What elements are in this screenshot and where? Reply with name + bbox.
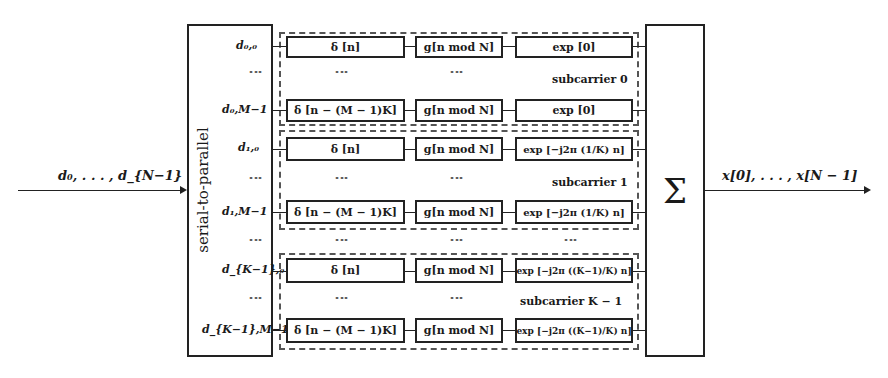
connector <box>503 110 515 111</box>
ellipsis-vertical: ⋮ <box>253 234 258 245</box>
subcarrier-label-0: subcarrier 0 <box>552 73 628 86</box>
connector <box>405 149 415 150</box>
modulation-block: exp [−j2π (1/K) n] <box>515 200 633 224</box>
ellipsis-vertical: ⋮ <box>339 172 344 183</box>
filter-block: g[n mod N] <box>415 99 503 122</box>
ellipsis-vertical: ⋮ <box>253 292 258 303</box>
connector <box>503 46 515 47</box>
connector <box>273 110 286 111</box>
connector <box>405 110 415 111</box>
delta-block: δ [n] <box>286 36 405 58</box>
connector <box>633 330 645 331</box>
filter-block: g[n mod N] <box>415 258 503 283</box>
filter-block: g[n mod N] <box>415 36 503 58</box>
delta-block: δ [n] <box>286 258 405 283</box>
filter-block: g[n mod N] <box>415 137 503 161</box>
sum-symbol: Σ <box>645 24 705 357</box>
connector <box>633 110 645 111</box>
connector <box>273 212 286 213</box>
connector <box>633 149 645 150</box>
input-label: d₀, . . . , d_{N−1} <box>58 168 182 183</box>
serial-to-parallel-label: serial-to-parallel <box>194 127 212 252</box>
input-symbol-label: d₀,₀ <box>236 39 257 52</box>
input-symbol-label: d_{K−1},₀ <box>222 263 284 276</box>
connector <box>273 271 286 272</box>
connector <box>405 212 415 213</box>
input-symbol-label: d₀,M−1 <box>222 103 267 116</box>
output-arrow-head <box>864 186 871 194</box>
modulation-block: exp [0] <box>515 99 633 122</box>
connector <box>405 46 415 47</box>
delta-block: δ [n − (M − 1)K] <box>286 200 405 224</box>
input-symbol-label: d₁,₀ <box>238 141 259 154</box>
connector <box>405 330 415 331</box>
connector <box>273 149 286 150</box>
connector <box>405 271 415 272</box>
input-arrow-head <box>180 186 187 194</box>
connector <box>633 46 645 47</box>
input-symbol-label: d₁,M−1 <box>222 205 267 218</box>
ellipsis-vertical: ⋮ <box>454 234 459 245</box>
ellipsis-vertical: ⋮ <box>339 234 344 245</box>
ellipsis-vertical: ⋮ <box>454 172 459 183</box>
connector <box>503 149 515 150</box>
output-label: x[0], . . . , x[N − 1] <box>722 168 857 183</box>
connector <box>503 330 515 331</box>
modulation-block: exp [−j2π ((K−1)/K) n] <box>515 318 633 343</box>
connector <box>273 46 286 47</box>
connector <box>633 212 645 213</box>
delta-block: δ [n − (M − 1)K] <box>286 99 405 122</box>
ellipsis-vertical: ⋮ <box>339 292 344 303</box>
ellipsis-vertical: ⋮ <box>568 234 573 245</box>
modulation-block: exp [−j2π (1/K) n] <box>515 137 633 161</box>
filter-block: g[n mod N] <box>415 200 503 224</box>
ellipsis-vertical: ⋮ <box>454 66 459 77</box>
connector <box>503 271 515 272</box>
connector <box>273 330 286 331</box>
ellipsis-vertical: ⋮ <box>253 172 258 183</box>
modulation-block: exp [−j2π ((K−1)/K) n] <box>515 258 633 283</box>
ellipsis-vertical: ⋮ <box>339 66 344 77</box>
serial-to-parallel-label-wrap: serial-to-parallel <box>188 24 218 356</box>
delta-block: δ [n] <box>286 137 405 161</box>
modulation-block: exp [0] <box>515 36 633 58</box>
subcarrier-label-k-minus-1: subcarrier K − 1 <box>520 295 622 308</box>
connector <box>503 212 515 213</box>
ellipsis-vertical: ⋮ <box>253 66 258 77</box>
filter-block: g[n mod N] <box>415 318 503 343</box>
subcarrier-label-1: subcarrier 1 <box>552 176 628 189</box>
output-arrow-line <box>705 190 865 191</box>
connector <box>633 271 645 272</box>
input-arrow-line <box>18 190 180 191</box>
ellipsis-vertical: ⋮ <box>454 292 459 303</box>
delta-block: δ [n − (M − 1)K] <box>286 318 405 343</box>
